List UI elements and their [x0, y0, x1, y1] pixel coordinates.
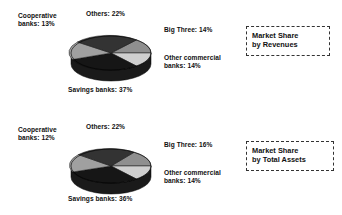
pie-label-cooperative-banks-line2: banks: 12% — [18, 134, 55, 141]
caption-box-revenues: Market Share by Revenues — [246, 26, 330, 56]
pie-label-other-commercial-banks: Other commercial banks: 14% — [164, 54, 234, 70]
pie-label-cooperative-banks-line2: banks: 13% — [18, 20, 55, 27]
pie-label-cooperative-banks-line1: Cooperative — [18, 126, 57, 133]
pie-label-other-commercial-banks-line2: banks: 14% — [164, 62, 201, 69]
chart-market-share-by-revenues: Cooperative banks: 13% Others: 22% Big T… — [0, 0, 342, 107]
pie-label-cooperative-banks: Cooperative banks: 13% — [18, 12, 80, 28]
pie-label-other-commercial-banks-line2: banks: 14% — [164, 177, 201, 184]
pie-label-savings-banks: Savings banks: 37% — [68, 86, 132, 94]
pie-label-savings-banks: Savings banks: 36% — [68, 195, 132, 203]
chart-market-share-by-total-assets: Cooperative banks: 12% Others: 22% Big T… — [0, 108, 342, 215]
pie-svg-total-assets — [70, 141, 152, 191]
caption-revenues-line1: Market Share — [252, 31, 324, 40]
pie-chart-total-assets — [70, 141, 152, 191]
pie-label-others: Others: 22% — [86, 123, 125, 131]
pie-label-other-commercial-banks-line1: Other commercial — [164, 54, 221, 61]
pie-label-cooperative-banks-line1: Cooperative — [18, 12, 57, 19]
pie-label-other-commercial-banks-line1: Other commercial — [164, 169, 221, 176]
caption-revenues-line2: by Revenues — [252, 40, 324, 49]
caption-box-total-assets: Market Share by Total Assets — [246, 141, 334, 171]
pie-label-big-three: Big Three: 14% — [164, 26, 212, 34]
pie-label-others: Others: 22% — [86, 10, 125, 18]
pie-chart-revenues — [70, 28, 152, 78]
pie-svg-revenues — [70, 28, 152, 78]
pie-label-cooperative-banks: Cooperative banks: 12% — [18, 126, 80, 142]
caption-total-assets-line1: Market Share — [252, 146, 328, 155]
caption-total-assets-line2: by Total Assets — [252, 155, 328, 164]
pie-label-other-commercial-banks: Other commercial banks: 14% — [164, 169, 234, 185]
pie-label-big-three: Big Three: 16% — [164, 141, 212, 149]
